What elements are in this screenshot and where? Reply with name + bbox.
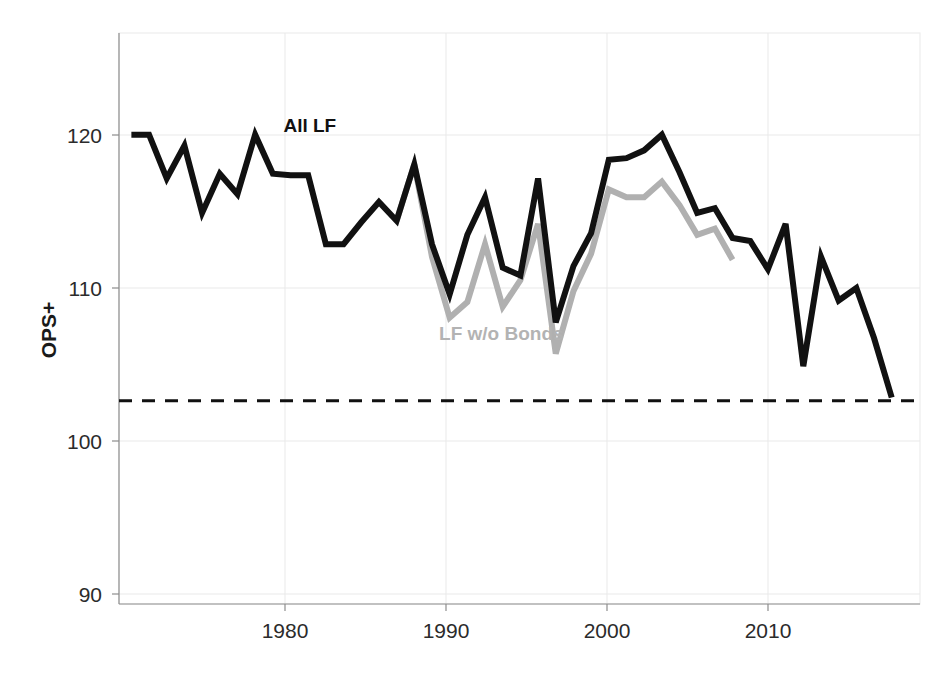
chart-figure: 120 110 100 90 1980 1990 2000 2010 OPS+ … <box>0 0 946 684</box>
y-tick-label-110: 110 <box>69 277 102 300</box>
series-line-all-lf <box>131 135 891 398</box>
y-axis-title: OPS+ <box>37 302 60 359</box>
y-tick-label-120: 120 <box>67 124 102 147</box>
annotation-all-lf: All LF <box>283 115 336 136</box>
x-tick-label-1980: 1980 <box>262 619 309 642</box>
x-tick-label-2000: 2000 <box>584 619 631 642</box>
y-axis-tick-marks <box>112 135 119 594</box>
vertical-gridlines <box>285 33 768 604</box>
y-tick-label-100: 100 <box>67 430 102 453</box>
x-tick-label-2010: 2010 <box>745 619 792 642</box>
x-tick-label-1990: 1990 <box>423 619 470 642</box>
y-tick-label-90: 90 <box>79 583 102 606</box>
horizontal-gridlines <box>119 135 920 594</box>
x-axis-tick-marks <box>285 604 768 611</box>
annotation-lf-wo-bonds: LF w/o Bonds <box>439 323 564 344</box>
ops-plus-line-chart: 120 110 100 90 1980 1990 2000 2010 OPS+ … <box>0 0 946 684</box>
